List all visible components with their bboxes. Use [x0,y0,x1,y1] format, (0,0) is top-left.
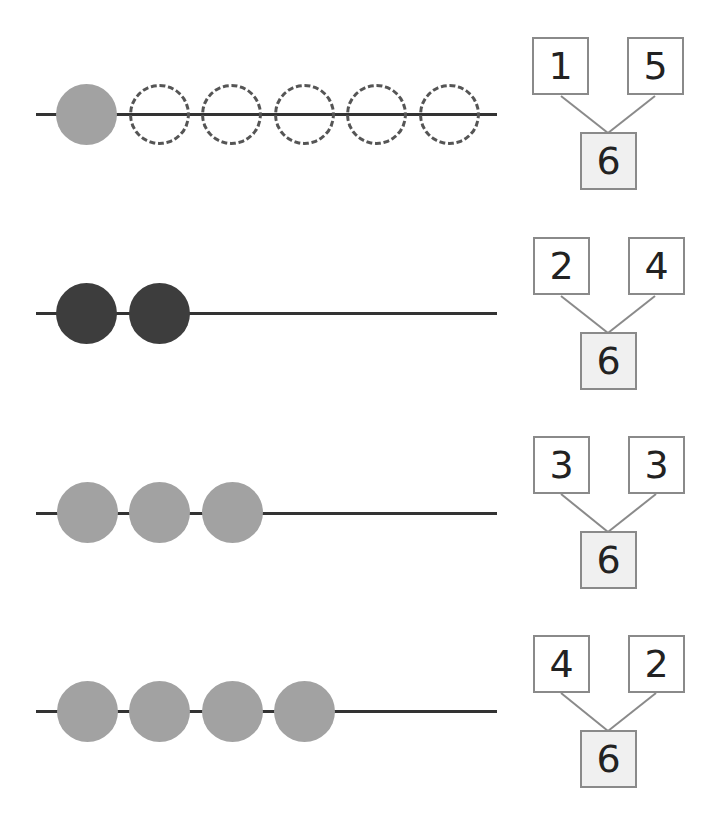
bond-connector-lines [0,0,725,815]
part-box-left: 4 [533,635,590,693]
whole-box: 6 [580,730,637,788]
number-bond-row-4: 4 2 6 [0,0,725,200]
part-box-right: 2 [628,635,685,693]
